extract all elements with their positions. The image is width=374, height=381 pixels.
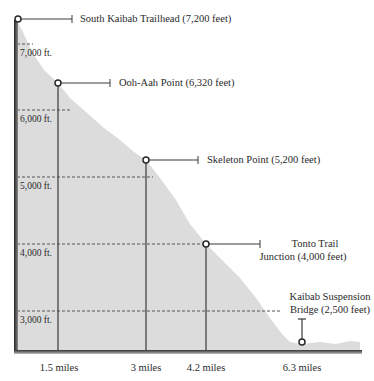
label-bridge-line2: Bridge (2,500 feet) (282, 303, 374, 316)
marker-trailhead (15, 16, 21, 22)
elevation-profile-chart (0, 0, 374, 381)
label-tonto-line1: Tonto Trail (248, 237, 358, 250)
marker-bridge (299, 339, 305, 345)
label-bridge-line1: Kaibab Suspension (282, 290, 374, 303)
label-oohaah: Ooh-Aah Point (6,320 feet) (119, 76, 234, 89)
label-tonto: Tonto Trail Junction (4,000 feet) (248, 237, 358, 263)
marker-skeleton (143, 157, 149, 163)
y-label-5000: 5,000 ft. (20, 180, 52, 193)
label-bridge: Kaibab Suspension Bridge (2,500 feet) (282, 290, 374, 316)
x-label-3: 3 miles (131, 361, 162, 374)
x-label-6-3: 6.3 miles (283, 361, 322, 374)
label-skeleton: Skeleton Point (5,200 feet) (207, 153, 320, 166)
x-axis (14, 350, 362, 354)
label-trailhead: South Kaibab Trailhead (7,200 feet) (80, 12, 231, 25)
y-label-7000: 7,000 ft. (20, 47, 52, 60)
y-label-6000: 6,000 ft. (20, 113, 52, 126)
marker-oohaah (55, 80, 61, 86)
y-axis (14, 20, 18, 353)
marker-tonto (203, 241, 209, 247)
label-tonto-line2: Junction (4,000 feet) (248, 250, 358, 263)
x-label-4-2: 4.2 miles (187, 361, 226, 374)
y-label-3000: 3,000 ft. (20, 314, 52, 327)
x-label-1-5: 1.5 miles (40, 361, 79, 374)
y-label-4000: 4,000 ft. (20, 247, 52, 260)
